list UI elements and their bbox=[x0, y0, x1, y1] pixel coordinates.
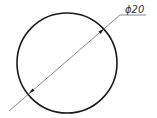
circle-outline bbox=[17, 13, 117, 113]
drawing-canvas: ϕ20 bbox=[0, 0, 157, 118]
diameter-label: ϕ20 bbox=[125, 4, 144, 15]
arrowhead-lower-icon bbox=[29, 88, 35, 93]
